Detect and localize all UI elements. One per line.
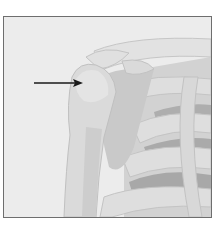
illustration-frame [3,16,212,218]
shoulder-illustration [4,17,211,217]
